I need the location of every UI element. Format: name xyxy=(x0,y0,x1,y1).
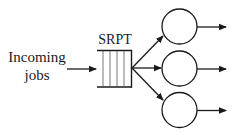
queue-label: SRPT xyxy=(98,32,132,47)
server-2-circle xyxy=(162,51,197,86)
dispatch-arrow-3 xyxy=(132,68,163,100)
server-3-circle xyxy=(162,93,197,128)
server-1-circle xyxy=(162,9,197,44)
dispatch-arrow-1 xyxy=(132,36,163,68)
incoming-label-line2: jobs xyxy=(23,67,49,83)
queue-buffer xyxy=(97,50,132,88)
srpt-queue-diagram: Incoming jobs SRPT xyxy=(0,0,238,135)
incoming-label-line1: Incoming xyxy=(8,49,66,65)
